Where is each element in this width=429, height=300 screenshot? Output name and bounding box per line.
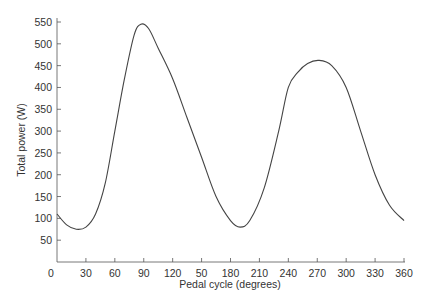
y-tick-label: 300 — [34, 125, 52, 137]
x-axis-ticks: 030609012050180210240270300330360 — [48, 258, 413, 279]
y-tick-label: 100 — [34, 212, 52, 224]
y-tick-label: 450 — [34, 60, 52, 72]
total-power-series — [57, 24, 404, 230]
x-tick-label: 60 — [109, 267, 121, 279]
x-tick-label: 30 — [80, 267, 92, 279]
y-tick-label: 350 — [34, 103, 52, 115]
power-line-chart: 030609012050180210240270300330360 501001… — [0, 0, 429, 300]
y-tick-label: 200 — [34, 169, 52, 181]
y-tick-label: 50 — [40, 234, 52, 246]
y-tick-label: 500 — [34, 38, 52, 50]
x-tick-label: 90 — [138, 267, 150, 279]
x-tick-label: 270 — [308, 267, 326, 279]
y-axis-label: Total power (W) — [15, 103, 27, 177]
y-tick-label: 150 — [34, 191, 52, 203]
x-tick-label: 330 — [366, 267, 384, 279]
y-tick-label: 550 — [34, 16, 52, 28]
x-axis-label: Pedal cycle (degrees) — [179, 278, 281, 290]
x-tick-label: 360 — [395, 267, 413, 279]
y-tick-label: 250 — [34, 147, 52, 159]
x-tick-label: 300 — [337, 267, 355, 279]
x-tick-label: 0 — [48, 267, 54, 279]
x-tick-label: 240 — [280, 267, 298, 279]
y-tick-label: 400 — [34, 81, 52, 93]
